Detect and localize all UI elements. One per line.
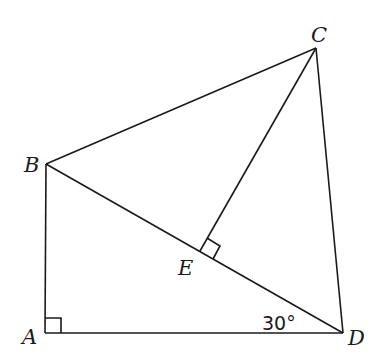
segment-ce	[200, 48, 316, 251]
segment-bd	[46, 164, 343, 333]
segment-ab	[45, 164, 46, 333]
label-d: D	[347, 326, 365, 350]
label-e: E	[177, 256, 193, 280]
geometry-diagram: A B C D E 30°	[0, 0, 378, 361]
segment-bc	[46, 48, 316, 164]
label-a: A	[20, 325, 37, 349]
segment-cd	[316, 48, 343, 333]
label-b: B	[23, 153, 39, 177]
right-angle-marker-a	[45, 318, 61, 333]
angle-label-d: 30°	[262, 312, 296, 334]
label-c: C	[311, 23, 327, 47]
